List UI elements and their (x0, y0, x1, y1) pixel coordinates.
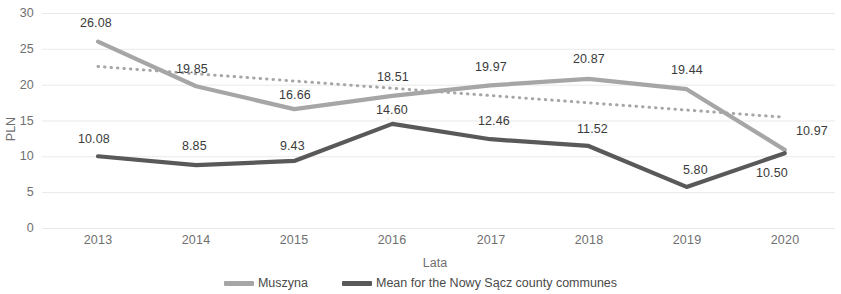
data-label-mean-2013: 10.08 (78, 132, 110, 146)
data-label-mean-2014: 8.85 (182, 139, 207, 153)
chart-legend: Muszyna Mean for the Nowy Sącz county co… (0, 276, 841, 290)
data-label-muszyna-2014: 19.85 (176, 62, 208, 76)
data-label-muszyna-2016: 18.51 (377, 70, 409, 84)
legend-item-mean[interactable]: Mean for the Nowy Sącz county communes (342, 276, 617, 290)
data-label-muszyna-2015: 16.66 (279, 88, 311, 102)
data-label-muszyna-2013: 26.08 (80, 16, 112, 30)
y-axis-title: PLN (4, 109, 18, 149)
legend-label-muszyna: Muszyna (258, 276, 308, 290)
x-tick-2015: 2015 (264, 233, 324, 247)
data-label-muszyna-2019: 19.44 (671, 63, 703, 77)
chart-plot-area (0, 0, 841, 294)
data-label-mean-2018: 11.52 (577, 122, 608, 136)
legend-swatch-icon-mean (342, 281, 372, 286)
series-line-mean (98, 124, 785, 187)
y-tick-25: 25 (8, 42, 34, 56)
x-tick-2016: 2016 (362, 233, 422, 247)
x-tick-2017: 2017 (461, 233, 521, 247)
y-tick-0: 0 (8, 221, 34, 235)
data-label-mean-2020: 10.50 (756, 166, 788, 180)
data-label-mean-2019: 5.80 (683, 163, 708, 177)
x-axis-title: Lata (405, 256, 465, 270)
legend-label-mean: Mean for the Nowy Sącz county communes (376, 276, 617, 290)
gridlines (42, 14, 835, 229)
line-chart: 30 25 20 15 10 5 0 PLN 2013 2014 2015 20… (0, 0, 841, 294)
x-tick-2019: 2019 (657, 233, 717, 247)
y-tick-30: 30 (8, 6, 34, 20)
x-tick-2013: 2013 (68, 233, 128, 247)
data-label-mean-2017: 12.46 (478, 114, 510, 128)
data-label-muszyna-2018: 20.87 (573, 52, 605, 66)
x-tick-2018: 2018 (559, 233, 619, 247)
legend-swatch-icon-muszyna (224, 281, 254, 286)
x-tick-2014: 2014 (166, 233, 226, 247)
y-tick-5: 5 (8, 185, 34, 199)
x-tick-2020: 2020 (755, 233, 815, 247)
data-label-mean-2016: 14.60 (376, 103, 408, 117)
y-tick-20: 20 (8, 78, 34, 92)
y-tick-10: 10 (8, 149, 34, 163)
data-label-muszyna-2020: 10.97 (796, 124, 828, 138)
data-label-muszyna-2017: 19.97 (475, 60, 507, 74)
data-label-mean-2015: 9.43 (280, 139, 305, 153)
legend-item-muszyna[interactable]: Muszyna (224, 276, 308, 290)
